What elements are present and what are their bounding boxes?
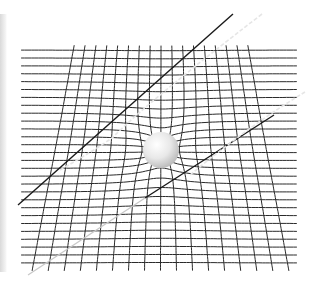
grid-line-horizontal	[21, 222, 297, 224]
mass-sphere-group	[143, 132, 179, 168]
grid-line-horizontal	[21, 238, 297, 239]
grid-line-horizontal	[21, 113, 297, 118]
grid-line-horizontal	[21, 58, 297, 59]
grid-line-vertical	[215, 45, 241, 270]
grid-line-horizontal	[21, 205, 297, 208]
grid-line-vertical	[179, 46, 192, 271]
grid-line-horizontal	[21, 197, 297, 200]
grid-line-horizontal	[21, 50, 297, 51]
spacetime-diagram	[0, 0, 314, 289]
grid-line-horizontal	[21, 66, 297, 67]
grid-line-vertical	[96, 46, 117, 271]
grid-line-vertical	[226, 45, 257, 271]
grid-line-horizontal	[21, 82, 297, 84]
grid-line-vertical	[32, 45, 74, 271]
grid-line-horizontal	[21, 254, 297, 255]
grid-line-horizontal	[21, 97, 297, 100]
lower-light-path-tail	[28, 198, 145, 275]
grid-line-vertical	[80, 45, 107, 270]
mass-sphere	[143, 132, 179, 168]
lower-deflected-path	[190, 92, 305, 175]
upper-light-path	[18, 14, 233, 205]
grid-line-horizontal	[21, 230, 297, 231]
grid-line-horizontal	[21, 214, 297, 216]
grid-line-horizontal	[21, 74, 297, 75]
grid-line-vertical	[129, 46, 143, 271]
grid-line-horizontal	[21, 246, 297, 247]
